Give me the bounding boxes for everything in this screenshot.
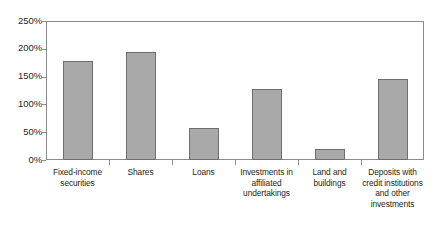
bars-group <box>46 21 424 160</box>
x-axis-category-label: Shares <box>109 167 172 178</box>
x-axis-tick-mark <box>172 160 173 165</box>
y-axis-tick-label: 150% <box>0 71 42 81</box>
x-axis-tick-mark <box>361 160 362 165</box>
y-axis-tick-label: 0% <box>0 155 42 165</box>
bar <box>63 61 93 160</box>
bar <box>252 89 282 160</box>
y-axis-tick-label: 200% <box>0 43 42 53</box>
bar <box>315 149 345 160</box>
x-axis-category-label: Fixed-income securities <box>46 167 109 188</box>
bar <box>126 52 156 160</box>
bar <box>378 79 408 160</box>
x-axis-tick-mark <box>235 160 236 165</box>
x-axis-tick-mark <box>109 160 110 165</box>
y-axis-tick-label: 50% <box>0 127 42 137</box>
x-axis-category-labels: Fixed-income securitiesSharesLoansInvest… <box>46 167 424 237</box>
x-axis-category-label: Loans <box>172 167 235 178</box>
bar <box>189 128 219 160</box>
y-axis: 0%50%100%150%200%250% <box>0 0 42 237</box>
x-axis-ticks <box>46 160 424 166</box>
x-axis-category-label: Investments in affiliated undertakings <box>235 167 298 199</box>
x-axis-tick-mark <box>298 160 299 165</box>
y-axis-tick-label: 250% <box>0 16 42 26</box>
y-axis-tick-label: 100% <box>0 99 42 109</box>
bar-chart: 0%50%100%150%200%250% Fixed-income secur… <box>0 0 446 237</box>
x-axis-category-label: Land and buildings <box>298 167 361 188</box>
x-axis-category-label: Deposits with credit institutions and ot… <box>361 167 424 209</box>
